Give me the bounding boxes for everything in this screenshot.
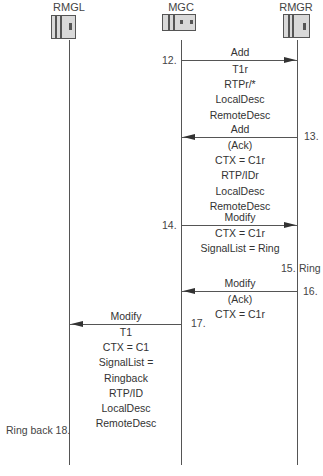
step-17: 17. bbox=[191, 317, 206, 329]
entity-label-rmgr: RMGR bbox=[266, 1, 323, 13]
param: LocalDesc bbox=[72, 401, 180, 416]
param: RemoteDesc bbox=[72, 416, 180, 431]
msg-17-params: T1 CTX = C1 SignalList = Ringback RTP/ID… bbox=[72, 325, 180, 431]
msg-16-name: Modify bbox=[185, 276, 295, 291]
param: RTP/IDr bbox=[185, 168, 295, 183]
param: CTX = C1r bbox=[178, 226, 302, 241]
msg-12-params: T1r RTPr/* LocalDesc RemoteDesc bbox=[185, 62, 295, 123]
msg-17-name: Modify bbox=[72, 309, 180, 324]
step-12: 12. bbox=[162, 54, 177, 66]
param: (Ack) bbox=[185, 138, 295, 153]
param: Ringback bbox=[72, 371, 180, 386]
param: T1 bbox=[72, 325, 180, 340]
step-16: 16. bbox=[303, 285, 318, 297]
entity-label-mgc: MGC bbox=[151, 1, 211, 13]
param: SignalList = Ring bbox=[178, 241, 302, 256]
param: CTX = C1 bbox=[72, 340, 180, 355]
param: RemoteDesc bbox=[185, 108, 295, 123]
rmgr-gateway-icon bbox=[283, 14, 310, 38]
msg-13-name: Add bbox=[185, 122, 295, 137]
step-13: 13. bbox=[304, 130, 319, 142]
rmgl-lifeline bbox=[69, 40, 70, 465]
step-14: 14. bbox=[162, 219, 177, 231]
entity-label-rmgl: RMGL bbox=[39, 1, 99, 13]
msg-12-name: Add bbox=[185, 45, 295, 60]
param: RTPr/* bbox=[185, 77, 295, 92]
msg-14-name: Modify bbox=[185, 210, 295, 225]
ring-event: Ring bbox=[299, 262, 321, 274]
msg-14-params: CTX = C1r SignalList = Ring bbox=[178, 226, 302, 256]
param: SignalList = bbox=[72, 355, 180, 370]
rmgl-gateway-icon bbox=[51, 15, 76, 39]
param: RTP/ID bbox=[72, 386, 180, 401]
param: (Ack) bbox=[185, 292, 295, 307]
step-15: 15. bbox=[281, 262, 296, 274]
msg-13-params: (Ack) CTX = C1r RTP/IDr LocalDesc Remote… bbox=[185, 138, 295, 214]
param: LocalDesc bbox=[185, 184, 295, 199]
param: LocalDesc bbox=[185, 92, 295, 107]
param: CTX = C1r bbox=[185, 153, 295, 168]
ringback-event: Ring back 18. bbox=[6, 424, 70, 436]
msg-12-arrow bbox=[181, 60, 297, 61]
param: T1r bbox=[185, 62, 295, 77]
mgc-controller-icon bbox=[162, 14, 196, 31]
